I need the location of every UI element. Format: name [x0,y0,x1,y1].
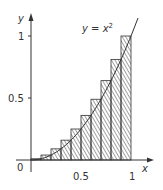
x-tick-label-1: 1 [129,171,135,182]
riemann-rectangles [31,36,131,160]
riemann-sum-chart: y x 0 1 0.5 0.5 1 y = x2 [0,0,163,190]
x-tick-label-0.5: 0.5 [73,171,89,182]
y-tick-label-0.5: 0.5 [8,93,24,104]
riemann-rectangle [61,140,71,160]
y-axis-label: y [17,13,25,24]
y-tick-label-1: 1 [18,31,24,42]
function-label: y = x2 [81,22,113,34]
riemann-rectangle [121,36,131,160]
x-axis-arrow-icon [147,158,154,163]
y-axis-arrow-icon [29,13,34,21]
origin-label: 0 [17,162,23,173]
riemann-rectangle [111,60,121,160]
riemann-rectangle [101,81,111,160]
riemann-rectangle [71,129,81,160]
x-axis-label: x [141,163,148,174]
